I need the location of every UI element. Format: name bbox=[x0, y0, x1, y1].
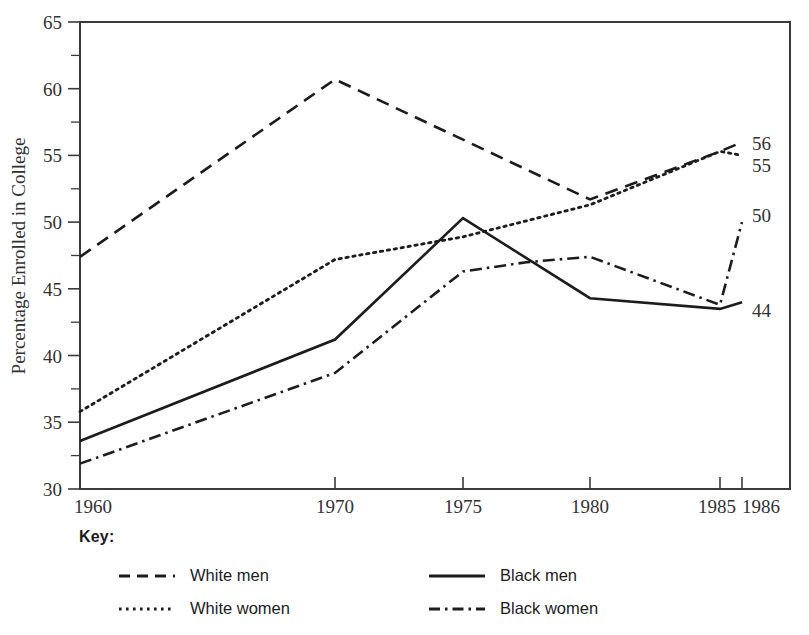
legend-item-black-women[interactable]: Black women bbox=[428, 599, 738, 618]
series-line-black-men bbox=[80, 218, 742, 441]
y-tick-label: 60 bbox=[43, 79, 62, 100]
series-line-white-men bbox=[80, 79, 742, 256]
legend-title: Key: bbox=[79, 528, 114, 546]
y-tick-label: 55 bbox=[43, 145, 62, 166]
dotted-line-icon bbox=[118, 602, 176, 616]
x-tick-label: 1960 bbox=[74, 496, 112, 517]
legend-item-black-men[interactable]: Black men bbox=[428, 566, 738, 585]
legend-entries: White men Black men White women bbox=[118, 559, 758, 625]
y-axis-title: Percentage Enrolled in College bbox=[8, 138, 29, 375]
y-tick-label: 50 bbox=[43, 212, 62, 233]
legend-label: Black men bbox=[500, 566, 577, 585]
x-tick-label: 1970 bbox=[316, 496, 354, 517]
plot-frame bbox=[80, 22, 790, 489]
end-value-labels: 56 55 50 44 bbox=[752, 133, 772, 321]
y-axis-minor-ticks bbox=[71, 55, 80, 455]
end-label-50: 50 bbox=[752, 205, 771, 226]
legend-item-white-women[interactable]: White women bbox=[118, 599, 428, 618]
x-tick-label: 1986 bbox=[742, 496, 780, 517]
x-tick-label: 1985 bbox=[698, 496, 736, 517]
y-tick-label: 65 bbox=[43, 12, 62, 33]
y-tick-label: 45 bbox=[43, 279, 62, 300]
x-axis-ticks bbox=[335, 477, 742, 489]
legend-item-white-men[interactable]: White men bbox=[118, 566, 428, 585]
end-label-56: 56 bbox=[752, 133, 771, 154]
series-layer bbox=[80, 79, 742, 463]
legend-row: White women Black women bbox=[118, 592, 758, 625]
series-line-black-women bbox=[80, 222, 742, 464]
dash-dot-line-icon bbox=[428, 602, 486, 616]
y-tick-label: 30 bbox=[43, 479, 62, 500]
chart-legend: Key: White men Black men bbox=[0, 528, 809, 635]
x-axis-tick-labels: 1960 1970 1975 1980 1985 1986 bbox=[74, 496, 780, 517]
x-tick-label: 1980 bbox=[571, 496, 609, 517]
legend-label: Black women bbox=[500, 599, 598, 618]
series-line-white-women bbox=[80, 151, 742, 411]
y-axis-tick-labels: 65 60 55 50 45 40 35 30 bbox=[43, 12, 62, 500]
end-label-55: 55 bbox=[752, 155, 771, 176]
legend-row: White men Black men bbox=[118, 559, 758, 592]
legend-label: White women bbox=[190, 599, 290, 618]
legend-label: White men bbox=[190, 566, 269, 585]
y-tick-label: 35 bbox=[43, 412, 62, 433]
dashed-line-icon bbox=[118, 569, 176, 583]
chart-page: 65 60 55 50 45 40 35 30 Percentage Enrol… bbox=[0, 0, 809, 635]
x-tick-label: 1975 bbox=[444, 496, 482, 517]
end-label-44: 44 bbox=[752, 300, 772, 321]
y-tick-label: 40 bbox=[43, 346, 62, 367]
solid-line-icon bbox=[428, 569, 486, 583]
